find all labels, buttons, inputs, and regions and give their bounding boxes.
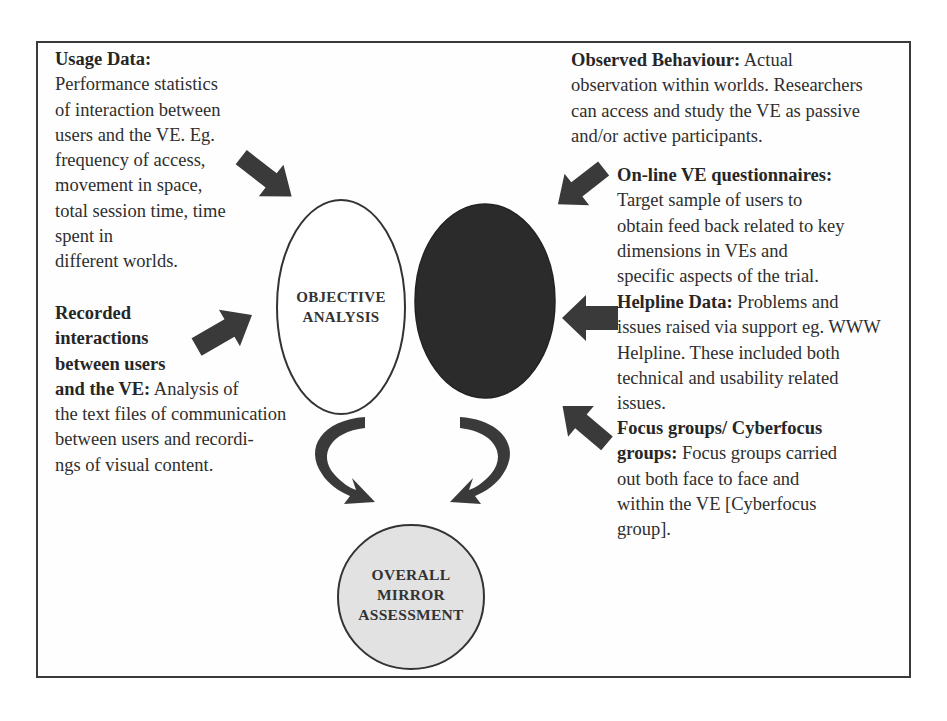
text-line: different worlds.: [55, 249, 226, 274]
text-line: the text files of communication: [55, 402, 286, 427]
recorded-interactions-heading-end: and the VE:: [55, 379, 150, 399]
usage-data-heading: Usage Data:: [55, 47, 226, 72]
text-line: issues.: [617, 391, 881, 416]
recorded-interactions-heading: between users: [55, 352, 286, 377]
text-line: total session time, time: [55, 199, 226, 224]
text-line: frequency of access,: [55, 148, 226, 173]
subjective-analysis-ellipse: [415, 204, 555, 398]
text-line: users and the VE. Eg.: [55, 123, 226, 148]
focus-groups-heading: Focus groups/ Cyberfocus: [617, 416, 837, 441]
text-line: can access and study the VE as passive: [571, 99, 863, 124]
text-line: specific aspects of the trial.: [617, 264, 845, 289]
recorded-interactions-heading: interactions: [55, 326, 286, 351]
text-line: spent in: [55, 224, 226, 249]
text-line: and the VE: Analysis of: [55, 377, 286, 402]
text-line: within the VE [Cyberfocus: [617, 492, 837, 517]
text-line: between users and recordi-: [55, 427, 286, 452]
recorded-interactions-heading: Recorded: [55, 301, 286, 326]
text-line: dimensions in VEs and: [617, 239, 845, 264]
text-line: ngs of visual content.: [55, 453, 286, 478]
overall-label-line: OVERALL: [338, 565, 484, 585]
mirror-label-line: MIRROR: [338, 585, 484, 605]
focus-groups-block: Focus groups/ Cyberfocus groups: Focus g…: [617, 416, 837, 542]
text-line: out both face to face and: [617, 467, 837, 492]
text-line: Helpline. These included both: [617, 341, 881, 366]
overall-assessment-label: OVERALL MIRROR ASSESSMENT: [338, 565, 484, 625]
usage-data-block: Usage Data: Performance statistics of in…: [55, 47, 226, 275]
text-line: Observed Behaviour: Actual: [571, 48, 863, 73]
analysis-label-line: ANALYSIS: [277, 307, 405, 327]
questionnaires-block: On-line VE questionnaires: Target sample…: [617, 163, 845, 289]
text-line: Helpline Data: Problems and: [617, 290, 881, 315]
observed-behaviour-block: Observed Behaviour: Actual observation w…: [571, 48, 863, 149]
helpline-data-block: Helpline Data: Problems and issues raise…: [617, 290, 881, 416]
text-line: Performance statistics: [55, 72, 226, 97]
text-line: Target sample of users to: [617, 188, 845, 213]
arrow-questionnaires-icon: [546, 153, 616, 220]
arrow-focus-groups-icon: [550, 391, 620, 459]
text-line: observation within worlds. Researchers: [571, 73, 863, 98]
arrow-helpline-icon: [562, 295, 618, 341]
text-fragment: Analysis of: [150, 379, 238, 399]
text-fragment: Problems and: [733, 292, 839, 312]
text-line: and/or active participants.: [571, 124, 863, 149]
focus-groups-heading-end: groups:: [617, 443, 677, 463]
text-fragment: Actual: [740, 50, 793, 70]
text-line: movement in space,: [55, 173, 226, 198]
text-line: groups: Focus groups carried: [617, 441, 837, 466]
objective-analysis-label: OBJECTIVE ANALYSIS: [277, 287, 405, 327]
text-line: issues raised via support eg. WWW: [617, 315, 881, 340]
observed-behaviour-heading: Observed Behaviour:: [571, 50, 740, 70]
text-line: obtain feed back related to key: [617, 214, 845, 239]
arrow-usage-data-icon: [229, 141, 304, 212]
helpline-data-heading: Helpline Data:: [617, 292, 733, 312]
curved-arrow-left-icon: [315, 417, 375, 504]
text-line: group].: [617, 517, 837, 542]
text-fragment: Focus groups carried: [677, 443, 837, 463]
assessment-label-line: ASSESSMENT: [338, 605, 484, 625]
questionnaires-heading: On-line VE questionnaires:: [617, 163, 845, 188]
objective-label-line: OBJECTIVE: [277, 287, 405, 307]
text-line: technical and usability related: [617, 366, 881, 391]
recorded-interactions-block: Recorded interactions between users and …: [55, 301, 286, 478]
text-line: of interaction between: [55, 98, 226, 123]
curved-arrow-right-icon: [450, 417, 510, 504]
